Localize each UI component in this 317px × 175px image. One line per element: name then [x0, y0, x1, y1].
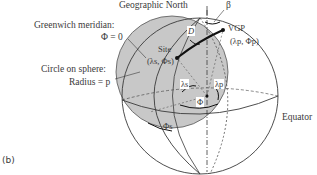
vgp-label: VGP — [228, 23, 245, 33]
geographic-north-label: Geographic North — [119, 0, 188, 10]
lambda-p-label: λp — [214, 79, 224, 89]
equator-label: Equator — [282, 112, 312, 122]
site-coords-label: (λs, Φs) — [147, 56, 174, 66]
phi-zero-label: Φ = 0 — [101, 32, 123, 42]
circle-on-sphere-label: Circle on sphere: — [41, 64, 106, 74]
radius-label: Radius = p — [69, 77, 110, 87]
phi-s-label: Φs — [163, 121, 173, 131]
vgp-coords-label: (λp, Φp) — [230, 36, 259, 46]
lambda-s-label: λs — [180, 79, 189, 89]
phi-label: Φ — [196, 97, 204, 107]
greenwich-meridian-label: Greenwich meridian: — [34, 20, 114, 30]
site-point — [175, 56, 179, 60]
circle-on-sphere — [116, 16, 228, 128]
beta-label: β — [226, 0, 231, 10]
center-point — [206, 95, 209, 98]
distance-label: D — [187, 26, 195, 36]
vgp-point — [221, 28, 225, 32]
site-label: Site — [158, 44, 171, 54]
panel-label: (b) — [2, 155, 15, 165]
